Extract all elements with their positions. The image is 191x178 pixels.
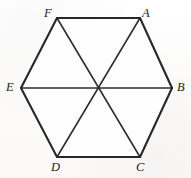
vertex-label-b: B bbox=[177, 81, 185, 94]
hexagon-figure: A B C D E F bbox=[0, 0, 191, 178]
vertex-label-e: E bbox=[6, 81, 14, 94]
vertex-label-f: F bbox=[44, 7, 52, 20]
vertex-label-d: D bbox=[51, 161, 60, 174]
vertex-label-a: A bbox=[142, 7, 150, 20]
hexagon-diagram bbox=[0, 0, 191, 178]
vertex-label-c: C bbox=[136, 161, 144, 174]
